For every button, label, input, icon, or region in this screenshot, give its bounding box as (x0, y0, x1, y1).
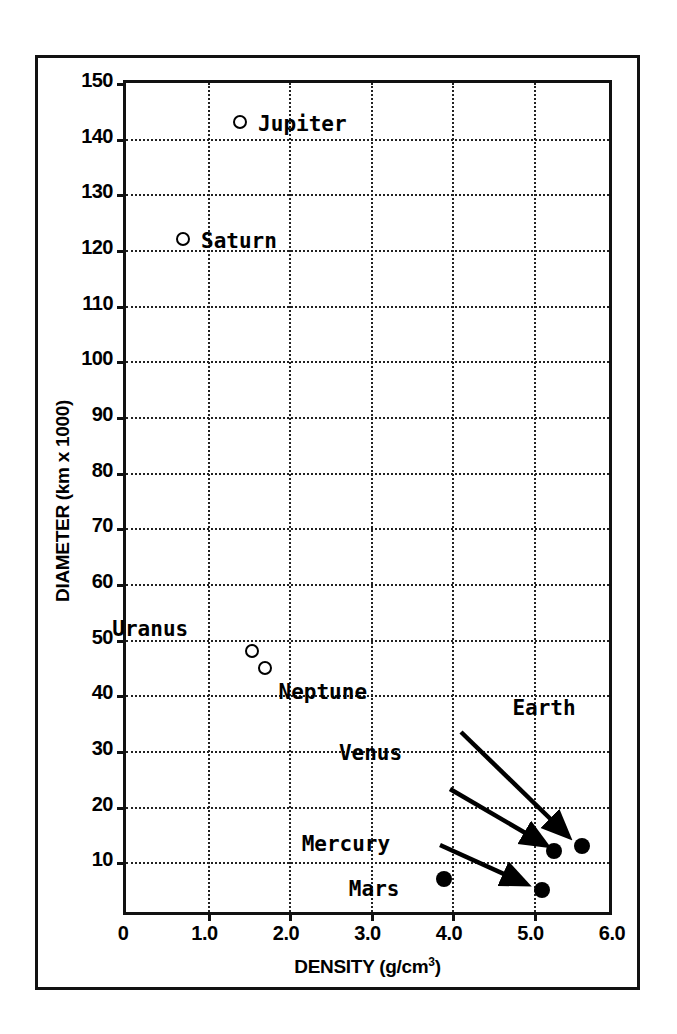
grid-line-vertical (208, 83, 210, 912)
y-axis-tick-label: 150 (81, 69, 113, 92)
y-axis-tick (117, 250, 126, 253)
x-axis-tick (289, 912, 292, 921)
point-label-jupiter: Jupiter (258, 112, 347, 136)
x-axis-tick (534, 912, 537, 921)
grid-line-horizontal (126, 584, 609, 586)
x-axis-title-superscript: 3 (428, 955, 434, 969)
grid-line-horizontal (126, 473, 609, 475)
plot-area: JupiterSaturnUranusNeptuneEarthVenusMerc… (123, 80, 612, 915)
y-axis-tick (117, 695, 126, 698)
data-point-mercury[interactable] (534, 882, 550, 898)
y-axis-tick-label: 120 (81, 236, 113, 259)
x-axis-tick-label: 1.0 (191, 922, 217, 945)
point-label-mercury: Mercury (302, 832, 391, 856)
data-point-saturn[interactable] (176, 232, 190, 246)
grid-line-vertical (371, 83, 373, 912)
y-axis-tick (117, 473, 126, 476)
data-point-jupiter[interactable] (233, 115, 247, 129)
data-point-neptune[interactable] (258, 661, 272, 675)
y-axis-tick-label: 100 (81, 347, 113, 370)
y-axis-tick-label: 30 (92, 737, 113, 760)
y-axis-tick (117, 194, 126, 197)
grid-line-horizontal (126, 194, 609, 196)
x-axis-tick-labels: 01.02.03.04.05.06.0 (123, 922, 612, 950)
y-axis-tick-label: 10 (92, 848, 113, 871)
grid-line-horizontal (126, 640, 609, 642)
data-point-mars[interactable] (436, 871, 452, 887)
grid-line-horizontal (126, 862, 609, 864)
y-axis-tick-label: 40 (92, 681, 113, 704)
grid-line-horizontal (126, 807, 609, 809)
x-axis-tick-label: 3.0 (354, 922, 380, 945)
point-label-mars: Mars (349, 877, 400, 901)
grid-line-vertical (534, 83, 536, 912)
y-axis-tick-label: 90 (92, 403, 113, 426)
y-axis-tick (117, 528, 126, 531)
x-axis-tick-label: 4.0 (436, 922, 462, 945)
point-label-neptune: Neptune (279, 680, 368, 704)
y-axis-tick (117, 361, 126, 364)
y-axis-tick-label: 110 (82, 291, 113, 314)
point-label-venus: Venus (339, 741, 402, 765)
data-point-uranus[interactable] (245, 644, 259, 658)
y-axis-tick (117, 584, 126, 587)
x-axis-tick (371, 912, 374, 921)
x-axis-tick (452, 912, 455, 921)
grid-line-horizontal (126, 250, 609, 252)
y-axis-tick-label: 140 (81, 124, 113, 147)
grid-line-horizontal (126, 361, 609, 363)
data-point-venus[interactable] (546, 843, 562, 859)
y-axis-title: DIAMETER (km x 1000) (52, 301, 74, 701)
y-axis-tick (117, 83, 126, 86)
y-axis-tick (117, 807, 126, 810)
x-axis-tick-label: 2.0 (273, 922, 299, 945)
y-axis-tick (117, 862, 126, 865)
grid-line-horizontal (126, 528, 609, 530)
y-axis-tick-label: 70 (92, 514, 113, 537)
y-axis-tick-label: 50 (92, 625, 113, 648)
x-axis-title: DENSITY (g/cm3) (123, 955, 612, 978)
y-axis-tick-label: 60 (92, 570, 113, 593)
y-axis-tick (117, 306, 126, 309)
y-axis-tick (117, 751, 126, 754)
point-label-saturn: Saturn (201, 229, 277, 253)
grid-line-horizontal (126, 139, 609, 141)
y-axis-tick-label: 20 (92, 792, 113, 815)
x-axis-tick-label: 6.0 (599, 922, 625, 945)
grid-line-vertical (452, 83, 454, 912)
grid-line-horizontal (126, 417, 609, 419)
x-axis-tick-label: 5.0 (517, 922, 543, 945)
grid-line-vertical (289, 83, 291, 912)
figure-container: JupiterSaturnUranusNeptuneEarthVenusMerc… (0, 0, 677, 1034)
x-axis-tick (208, 912, 211, 921)
y-axis-tick (117, 417, 126, 420)
data-point-earth[interactable] (574, 838, 590, 854)
y-axis-tick-label: 80 (92, 458, 113, 481)
y-axis-tick (117, 139, 126, 142)
y-axis-tick-label: 130 (81, 180, 113, 203)
grid-line-horizontal (126, 306, 609, 308)
x-axis-tick-label: 0 (118, 922, 129, 945)
point-label-earth: Earth (512, 696, 575, 720)
point-label-uranus: Uranus (112, 617, 188, 641)
